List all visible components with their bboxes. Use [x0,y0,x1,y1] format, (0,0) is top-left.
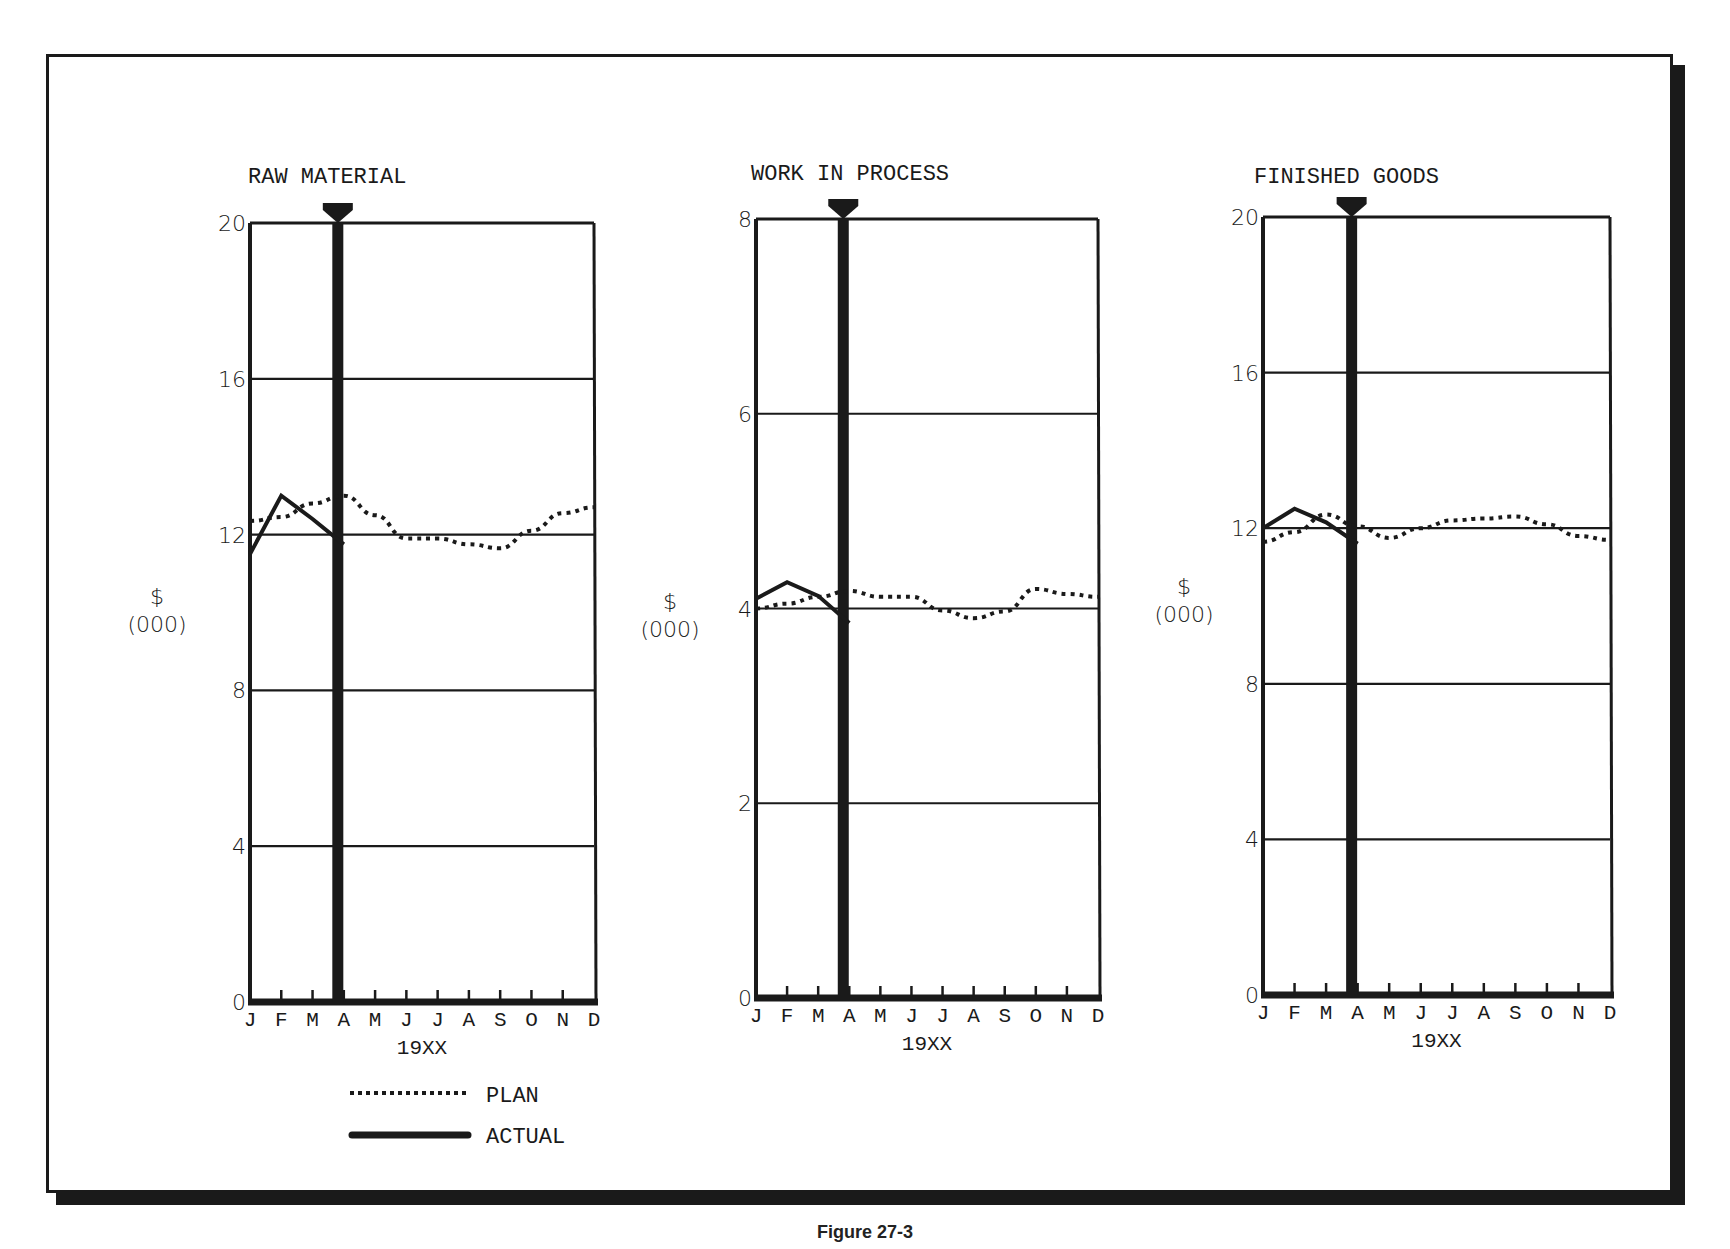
month-label: O [525,1009,538,1032]
month-label: J [244,1009,257,1032]
y-tick-label: 20 [1231,205,1259,230]
y-tick-label: 16 [1231,361,1259,386]
chart-title: FINISHED GOODS [1254,165,1439,190]
actual-line [756,582,849,623]
month-label: M [1320,1002,1333,1025]
month-label: O [1541,1002,1554,1025]
month-label: A [843,1005,856,1028]
month-label: D [1092,1005,1105,1028]
legend-plan-label: PLAN [486,1084,539,1109]
month-label: F [275,1009,288,1032]
y-axis-label-units: (000) [1154,602,1213,627]
y-axis-label-currency: $ [1177,574,1191,599]
month-label: J [1257,1002,1270,1025]
y-tick-label: 4 [738,597,752,622]
month-label: M [306,1009,319,1032]
month-label: O [1030,1005,1043,1028]
y-tick-label: 20 [218,211,246,236]
month-label: M [874,1005,887,1028]
month-label: J [431,1009,444,1032]
month-label: M [1383,1002,1396,1025]
plan-line [250,496,594,549]
figure-canvas: RAW MATERIAL048121620JFMAMJJASOND19XX$(0… [0,0,1730,1249]
month-label: M [369,1009,382,1032]
figure-caption: Figure 27-3 [0,1222,1730,1243]
x-axis-label: 19XX [1411,1030,1462,1053]
y-axis-label-currency: $ [663,589,677,614]
charts-svg: RAW MATERIAL048121620JFMAMJJASOND19XX$(0… [0,0,1730,1249]
y-tick-label: 8 [738,207,752,232]
chart-panel-raw-material: RAW MATERIAL048121620JFMAMJJASOND19XX$(0… [127,165,600,1060]
month-label: F [1288,1002,1301,1025]
y-tick-label: 12 [218,523,246,548]
month-label: D [588,1009,601,1032]
y-tick-label: 6 [738,402,752,427]
y-axis-label-currency: $ [150,584,164,609]
legend: PLANACTUAL [350,1084,565,1150]
month-label: J [750,1005,763,1028]
month-label: J [936,1005,949,1028]
plan-line [756,589,1098,618]
month-label: J [400,1009,413,1032]
y-tick-label: 16 [218,367,246,392]
right-border [1098,219,1100,998]
right-border [1610,217,1612,995]
month-label: J [1414,1002,1427,1025]
month-label: S [494,1009,507,1032]
month-label: A [463,1009,476,1032]
month-label: J [905,1005,918,1028]
month-label: N [556,1009,569,1032]
chart-title: WORK IN PROCESS [751,162,949,187]
y-tick-label: 8 [1245,672,1259,697]
actual-line [1263,509,1358,544]
actual-line [250,496,344,554]
y-axis-label-units: (000) [640,617,699,642]
month-label: D [1604,1002,1617,1025]
x-axis-label: 19XX [397,1037,448,1060]
chart-panel-finished-goods: FINISHED GOODS048121620JFMAMJJASOND19XX$… [1154,165,1616,1053]
chart-panel-work-in-process: WORK IN PROCESS02468JFMAMJJASOND19XX$(00… [640,162,1104,1056]
month-label: J [1446,1002,1459,1025]
y-tick-label: 2 [738,791,752,816]
month-label: A [338,1009,351,1032]
month-label: A [967,1005,980,1028]
month-label: N [1572,1002,1585,1025]
down-arrow-icon [1337,197,1367,217]
y-tick-label: 12 [1231,516,1259,541]
legend-actual-label: ACTUAL [486,1125,565,1150]
month-label: M [812,1005,825,1028]
down-arrow-icon [828,199,858,219]
month-label: S [998,1005,1011,1028]
month-label: N [1061,1005,1074,1028]
down-arrow-icon [323,203,353,223]
right-border [594,223,596,1002]
month-label: A [1351,1002,1364,1025]
month-label: F [781,1005,794,1028]
y-axis-label-units: (000) [127,612,186,637]
chart-title: RAW MATERIAL [248,165,406,190]
x-axis-label: 19XX [902,1033,953,1056]
month-label: A [1478,1002,1491,1025]
month-label: S [1509,1002,1522,1025]
y-tick-label: 4 [1245,827,1259,852]
y-tick-label: 8 [232,678,246,703]
y-tick-label: 4 [232,834,246,859]
